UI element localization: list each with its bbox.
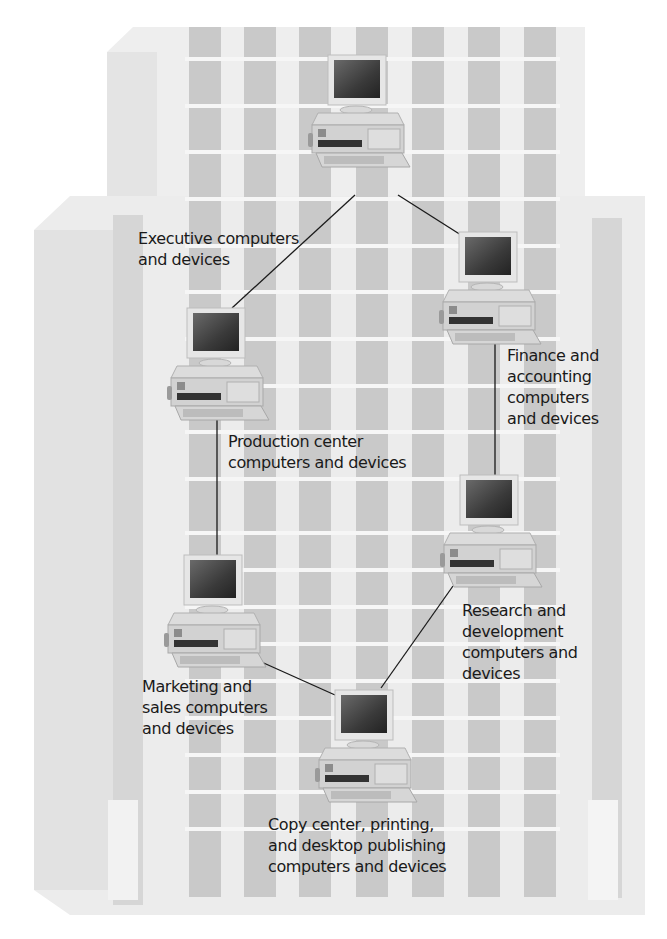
ring-network-diagram: Executive computers and devices Finance … xyxy=(0,0,667,939)
node-label-marketing: Marketing and sales computers and device… xyxy=(142,676,267,739)
node-label-research: Research and development computers and d… xyxy=(462,600,578,684)
node-label-copy: Copy center, printing, and desktop publi… xyxy=(268,814,446,877)
node-label-executive: Executive computers and devices xyxy=(138,228,299,270)
node-label-finance: Finance and accounting computers and dev… xyxy=(507,345,599,429)
node-label-production: Production center computers and devices xyxy=(228,431,406,473)
